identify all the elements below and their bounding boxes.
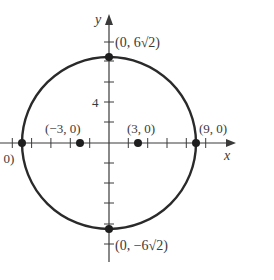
left-vertex-label: , 0): [0, 151, 14, 166]
right-focus-point: [134, 139, 142, 147]
x-axis: [0, 138, 236, 148]
top-vertex-label: (0, 6√2): [115, 35, 160, 51]
right-focus-label: (3, 0): [127, 121, 155, 136]
y-axis-label: y: [93, 12, 102, 27]
left-vertex-point: [18, 139, 26, 147]
bottom-vertex-label: (0, −6√2): [115, 238, 168, 254]
x-axis-label: x: [223, 148, 231, 163]
bottom-vertex-point: [105, 225, 113, 233]
left-focus-label: (−3, 0): [45, 121, 81, 136]
right-vertex-label: (9, 0): [199, 121, 227, 136]
y-axis: [104, 14, 114, 262]
left-focus-point: [76, 139, 84, 147]
ellipse-graph: y x 4 (0, 6√2) (0, −6√2) (9, 0) , 0) (−3…: [0, 0, 274, 280]
y-axis-arrow-icon: [105, 14, 113, 25]
y-tick-label-4: 4: [92, 95, 99, 110]
top-vertex-point: [105, 53, 113, 61]
x-axis-arrow-icon: [226, 139, 236, 147]
right-vertex-point: [192, 139, 200, 147]
